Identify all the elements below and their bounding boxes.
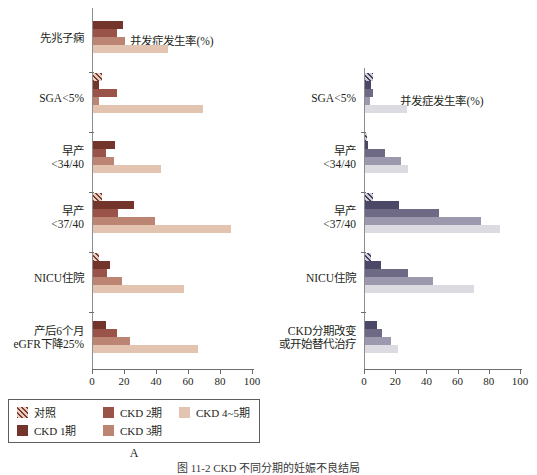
- bar: [93, 21, 123, 29]
- bar: [93, 89, 117, 97]
- legend-label: CKD 3期: [120, 422, 162, 438]
- bar: [365, 345, 398, 353]
- bar-group: 早产<34/40: [365, 133, 520, 183]
- legend-label: 对照: [34, 404, 56, 420]
- legend-swatch-icon: [103, 425, 114, 436]
- x-tick-label: 80: [215, 375, 226, 387]
- category-label-line: 早产: [323, 205, 356, 218]
- category-label-line: SGA<5%: [311, 92, 356, 105]
- bar: [93, 29, 117, 37]
- bar: [365, 261, 381, 269]
- category-label: 先兆子痫: [40, 32, 84, 45]
- category-label-line: NICU住院: [34, 272, 84, 285]
- bar: [93, 261, 110, 269]
- x-tick-label: 60: [183, 375, 194, 387]
- x-tick-label: 0: [361, 375, 367, 387]
- x-tick-mark: [364, 370, 365, 374]
- bar: [365, 209, 439, 217]
- bar-stack: [365, 253, 520, 293]
- legend-a: 对照CKD 1期CKD 2期CKD 3期CKD 4~5期: [8, 399, 260, 443]
- x-tick-mark: [92, 370, 93, 374]
- category-label: SGA<5%: [311, 92, 356, 105]
- category-label: 产后6个月eGFR下降25%: [13, 325, 84, 351]
- legend-item-ckd3[interactable]: CKD 3期: [103, 422, 162, 438]
- x-tick-label: 80: [483, 375, 494, 387]
- bar: [93, 97, 99, 105]
- bar: [365, 321, 377, 329]
- category-label-line: SGA<5%: [39, 92, 84, 105]
- bar: [93, 217, 155, 225]
- panel-b: 020406080100 并发症发生率(%) SGA<5%早产<34/40早产<…: [268, 0, 537, 475]
- bar: [365, 105, 407, 113]
- bar: [365, 329, 382, 337]
- bar: [93, 45, 168, 53]
- bar: [365, 201, 399, 209]
- x-tick-mark: [220, 370, 221, 374]
- x-tick-label: 0: [89, 375, 95, 387]
- bar: [365, 157, 401, 165]
- bar-group: 早产<37/40: [93, 193, 252, 243]
- bar: [365, 149, 385, 157]
- bar-stack: [365, 313, 520, 353]
- category-label: 早产<37/40: [323, 205, 356, 231]
- legend-swatch-icon: [17, 425, 28, 436]
- x-tick-label: 20: [390, 375, 401, 387]
- x-axis-b: [364, 369, 522, 370]
- bar-stack: [93, 73, 252, 113]
- bar-stack: [93, 193, 252, 233]
- category-label-line: <34/40: [51, 158, 84, 171]
- x-tick-label: 100: [512, 375, 529, 387]
- category-label-line: 或开始替代治疗: [279, 338, 356, 351]
- figure-caption: 图 11-2 CKD 不同分期的妊娠不良结局: [0, 459, 537, 475]
- x-tick-mark: [520, 370, 521, 374]
- bar-group: 早产<34/40: [93, 133, 252, 183]
- bar: [93, 73, 102, 81]
- bar: [365, 253, 371, 261]
- bar: [93, 165, 161, 173]
- x-tick-mark: [395, 370, 396, 374]
- legend-label: CKD 1期: [34, 422, 76, 438]
- bar: [93, 149, 106, 157]
- legend-item-ckd45[interactable]: CKD 4~5期: [179, 404, 250, 420]
- legend-label: CKD 4~5期: [196, 404, 250, 420]
- category-label-line: 早产: [51, 145, 84, 158]
- category-label: 早产<34/40: [51, 145, 84, 171]
- plot-area-a: 020406080100 并发症发生率(%) 先兆子痫SGA<5%早产<34/4…: [92, 8, 252, 370]
- legend-label: CKD 2期: [120, 404, 162, 420]
- bar: [365, 97, 370, 105]
- legend-item-ctrl[interactable]: 对照: [17, 404, 56, 420]
- bar-group: NICU住院: [93, 253, 252, 303]
- category-label-line: <34/40: [323, 158, 356, 171]
- bar: [93, 277, 122, 285]
- bar-stack: [93, 253, 252, 293]
- panel-a: 020406080100 并发症发生率(%) 先兆子痫SGA<5%早产<34/4…: [0, 0, 270, 475]
- x-tick-mark: [458, 370, 459, 374]
- legend-swatch-icon: [179, 407, 190, 418]
- bar-stack: [365, 73, 520, 113]
- x-axis-a: [92, 369, 254, 370]
- category-label: 早产<34/40: [323, 145, 356, 171]
- category-label-line: <37/40: [51, 218, 84, 231]
- bar: [365, 337, 391, 345]
- legend-item-ckd2[interactable]: CKD 2期: [103, 404, 162, 420]
- category-label-line: 早产: [51, 205, 84, 218]
- x-tick-label: 100: [244, 375, 261, 387]
- x-tick-label: 60: [452, 375, 463, 387]
- x-tick-mark: [156, 370, 157, 374]
- category-label-line: 先兆子痫: [40, 32, 84, 45]
- category-label: NICU住院: [306, 272, 356, 285]
- bar: [93, 209, 118, 217]
- category-label: CKD分期改变或开始替代治疗: [279, 325, 356, 351]
- bar-group: 早产<37/40: [365, 193, 520, 243]
- bar: [93, 329, 117, 337]
- legend-item-ckd1[interactable]: CKD 1期: [17, 422, 76, 438]
- bar: [93, 201, 134, 209]
- category-label: NICU住院: [34, 272, 84, 285]
- x-tick-label: 40: [421, 375, 432, 387]
- category-label: SGA<5%: [39, 92, 84, 105]
- bar: [93, 225, 231, 233]
- category-label-line: CKD分期改变: [279, 325, 356, 338]
- x-tick-label: 20: [119, 375, 130, 387]
- plot-area-b: 020406080100 并发症发生率(%) SGA<5%早产<34/40早产<…: [364, 68, 520, 370]
- x-tick-mark: [188, 370, 189, 374]
